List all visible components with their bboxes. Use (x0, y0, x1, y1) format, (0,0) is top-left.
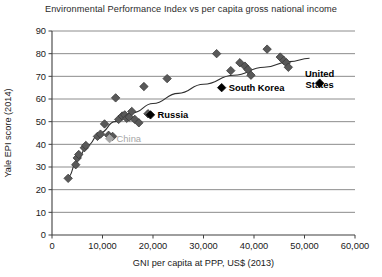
y-tick-label: 30 (36, 162, 46, 172)
x-tick-label: 50,000 (290, 241, 318, 251)
y-tick-label: 20 (36, 185, 46, 195)
annotation-label: China (117, 133, 142, 144)
x-tick-label: 30,000 (189, 241, 217, 251)
y-tick-label: 60 (36, 94, 46, 104)
data-point (263, 45, 271, 53)
y-tick-label: 70 (36, 72, 46, 82)
data-point (212, 49, 220, 57)
y-tick-label: 10 (36, 208, 46, 218)
data-point (227, 66, 235, 74)
annotation-label: South Korea (229, 82, 286, 93)
data-point (64, 174, 72, 182)
annotation-label: UnitedStates (305, 68, 334, 90)
y-tick-label: 80 (36, 49, 46, 59)
x-tick-label: 20,000 (139, 241, 167, 251)
y-axis-title: Yale EPI score (2014) (3, 88, 13, 177)
y-tick-labels: 0102030405060708090 (36, 26, 46, 240)
data-point (111, 94, 119, 102)
x-tick-labels: 010,00020,00030,00040,00050,00060,000 (49, 241, 369, 251)
y-tick-label: 0 (41, 230, 46, 240)
y-tick-label: 50 (36, 117, 46, 127)
scatter-plot: 0102030405060708090 010,00020,00030,0004… (0, 0, 382, 277)
x-tick-label: 60,000 (341, 241, 369, 251)
x-axis-title: GNI per capita at PPP, US$ (2013) (133, 258, 274, 268)
chart-container: Environmental Performance Index vs per c… (0, 0, 382, 277)
annotation-label: Russia (157, 109, 189, 120)
y-tick-label: 90 (36, 26, 46, 36)
y-tick-label: 40 (36, 140, 46, 150)
x-tick-label: 10,000 (88, 241, 116, 251)
x-tick-label: 40,000 (240, 241, 268, 251)
data-point (163, 74, 171, 82)
annotated-data-point (217, 83, 225, 91)
x-tick-label: 0 (49, 241, 54, 251)
data-point (140, 82, 148, 90)
